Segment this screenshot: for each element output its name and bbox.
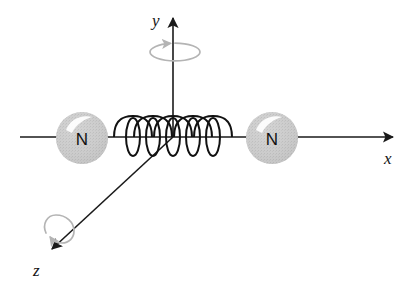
atom-label: N bbox=[76, 130, 88, 149]
x-axis-label: x bbox=[383, 149, 392, 168]
z-axis-rotation-arrow bbox=[45, 215, 74, 243]
y-axis-label: y bbox=[150, 11, 160, 30]
left-nitrogen-atom: N bbox=[56, 112, 108, 164]
physics-diagram: N N y x z bbox=[0, 0, 414, 289]
diagram-canvas: N N y x z bbox=[0, 0, 414, 289]
y-axis-rotation-arrow bbox=[150, 43, 200, 61]
z-axis-label: z bbox=[32, 261, 40, 280]
right-nitrogen-atom: N bbox=[246, 112, 298, 164]
atom-label: N bbox=[266, 130, 278, 149]
